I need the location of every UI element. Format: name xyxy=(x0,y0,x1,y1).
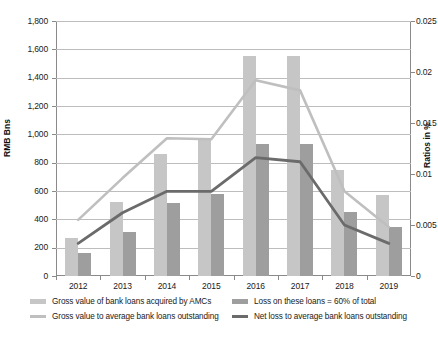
y-axis-right-tickmark xyxy=(411,72,415,73)
x-axis-tick-label: 2016 xyxy=(236,281,276,291)
lines-layer xyxy=(56,21,411,276)
x-axis-tick-label: 2018 xyxy=(324,281,364,291)
y-axis-left-tick-label: 1,600 xyxy=(4,44,48,54)
y-axis-left-tick-label: 1,200 xyxy=(4,101,48,111)
y-axis-right-tick-label: 0.02 xyxy=(416,67,438,77)
y-axis-left-tick-label: 400 xyxy=(4,214,48,224)
y-axis-right-tickmark xyxy=(411,276,415,277)
y-axis-left-tick-label: 600 xyxy=(4,186,48,196)
legend-item-gross-bars: Gross value of bank loans acquired by AM… xyxy=(30,297,211,306)
y-axis-right-tickmark xyxy=(411,123,415,124)
x-axis-tickmark xyxy=(367,276,368,280)
y-axis-left-tick-label: 1,400 xyxy=(4,72,48,82)
x-axis-tickmark xyxy=(322,276,323,280)
y-axis-left-tick-label: 1,800 xyxy=(4,16,48,26)
legend-label-net-loss-line: Net loss to average bank loans outstandi… xyxy=(254,312,407,321)
x-axis-tick-label: 2012 xyxy=(58,281,98,291)
legend-label-gross-ratio-line: Gross value to average bank loans outsta… xyxy=(52,312,219,321)
y-axis-right-tick-label: 0.025 xyxy=(416,16,438,26)
line-gross-ratio xyxy=(78,80,389,227)
legend-item-gross-ratio-line: Gross value to average bank loans outsta… xyxy=(30,312,219,321)
y-axis-right-tick-label: 0.005 xyxy=(416,220,438,230)
y-axis-left-tick-label: 0 xyxy=(4,271,48,281)
chart-container: 02004006008001,0001,2001,4001,6001,800 0… xyxy=(0,0,438,342)
x-axis-tickmark xyxy=(100,276,101,280)
x-axis-tick-label: 2015 xyxy=(191,281,231,291)
legend-swatch-gross-ratio-line xyxy=(30,315,46,318)
x-axis-tick-label: 2017 xyxy=(280,281,320,291)
x-axis-tick-label: 2013 xyxy=(103,281,143,291)
y-axis-right-title: Ratios in % xyxy=(422,122,432,168)
y-axis-left-tick-label: 800 xyxy=(4,157,48,167)
x-axis-tickmark xyxy=(56,276,57,280)
legend: Gross value of bank loans acquired by AM… xyxy=(0,297,438,327)
y-axis-right-tick-label: 0.01 xyxy=(416,169,438,179)
y-axis-right-tickmark xyxy=(411,174,415,175)
legend-swatch-loss-bars xyxy=(232,299,248,304)
y-axis-right-tickmark xyxy=(411,21,415,22)
x-axis-tickmark xyxy=(278,276,279,280)
x-axis-tick-label: 2014 xyxy=(147,281,187,291)
legend-item-net-loss-line: Net loss to average bank loans outstandi… xyxy=(232,312,407,321)
legend-swatch-gross-bars xyxy=(30,299,46,304)
x-axis-tick-label: 2019 xyxy=(369,281,409,291)
line-net-loss-ratio xyxy=(78,158,389,244)
legend-label-loss-bars: Loss on these loans = 60% of total xyxy=(254,297,376,306)
legend-label-gross-bars: Gross value of bank loans acquired by AM… xyxy=(52,297,211,306)
y-axis-left-tick-label: 200 xyxy=(4,242,48,252)
y-axis-right-tickmark xyxy=(411,225,415,226)
y-axis-left-title: RMB Bns xyxy=(2,119,12,157)
legend-swatch-net-loss-line xyxy=(232,315,248,318)
x-axis-tickmark xyxy=(189,276,190,280)
legend-item-loss-bars: Loss on these loans = 60% of total xyxy=(232,297,376,306)
x-axis-tickmark xyxy=(145,276,146,280)
x-axis-tickmark xyxy=(234,276,235,280)
y-axis-right-tick-label: 0 xyxy=(416,271,438,281)
